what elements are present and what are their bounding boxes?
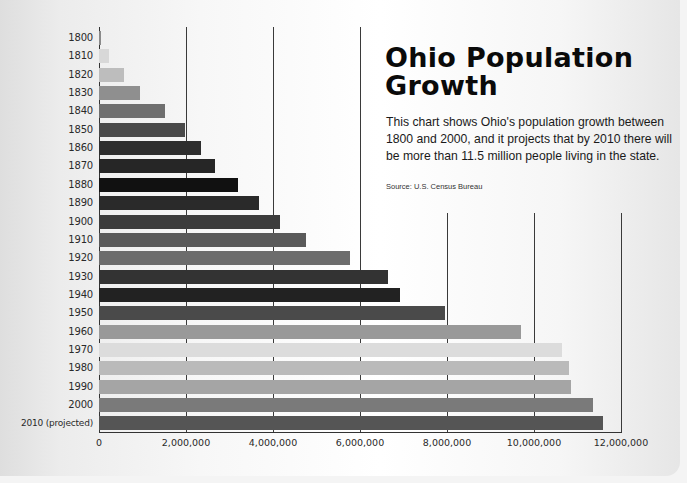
y-tick-label: 1900: [68, 216, 93, 228]
bar-1870: [99, 159, 215, 173]
y-tick-label: 2010 (projected): [21, 417, 93, 429]
y-tick-label: 1830: [68, 87, 93, 99]
bar-1880: [99, 178, 238, 192]
x-tick-label: 2,000,000: [162, 437, 210, 448]
x-tick-label: 4,000,000: [249, 437, 297, 448]
bar-1920: [99, 251, 350, 265]
y-tick-label: 1890: [68, 197, 93, 209]
x-axis-line: [99, 432, 622, 433]
bar-1960: [99, 325, 521, 339]
chart-page: 02,000,0004,000,0006,000,0008,000,00010,…: [0, 0, 680, 476]
bar-1910: [99, 233, 306, 247]
y-tick-label: 1950: [68, 307, 93, 319]
bar-1860: [99, 141, 201, 155]
y-tick-label: 1810: [68, 50, 93, 62]
chart-source: Source: U.S. Census Bureau: [386, 182, 482, 191]
bar-1900: [99, 215, 280, 229]
y-tick-label: 1940: [68, 289, 93, 301]
y-tick-label: 1990: [68, 381, 93, 393]
gridline: [621, 213, 622, 432]
x-tick-label: 12,000,000: [594, 437, 648, 448]
y-tick-label: 2000: [68, 399, 93, 411]
y-tick-label: 1930: [68, 271, 93, 283]
bar-1830: [99, 86, 140, 100]
bar-1890: [99, 196, 259, 210]
y-tick-label: 1880: [68, 179, 93, 191]
bar-2010: [99, 416, 603, 430]
chart-description: This chart shows Ohio's population growt…: [386, 114, 676, 165]
x-tick-label: 6,000,000: [336, 437, 384, 448]
y-tick-label: 1820: [68, 69, 93, 81]
y-tick-label: 1850: [68, 124, 93, 136]
bar-1970: [99, 343, 562, 357]
bar-1980: [99, 361, 569, 375]
y-tick-label: 1910: [68, 234, 93, 246]
bar-1930: [99, 270, 388, 284]
y-tick-label: 1980: [68, 362, 93, 374]
bar-1990: [99, 380, 571, 394]
y-axis-labels: 1800181018201830184018501860187018801890…: [0, 0, 93, 476]
bar-1840: [99, 104, 165, 118]
bar-1940: [99, 288, 400, 302]
x-tick-label: 10,000,000: [507, 437, 561, 448]
bar-1800: [99, 31, 101, 45]
bar-1810: [99, 49, 109, 63]
y-tick-label: 1970: [68, 344, 93, 356]
bar-1820: [99, 68, 124, 82]
y-tick-label: 1960: [68, 326, 93, 338]
y-tick-label: 1840: [68, 105, 93, 117]
x-tick-label: 0: [96, 437, 102, 448]
y-tick-label: 1920: [68, 252, 93, 264]
y-tick-label: 1870: [68, 160, 93, 172]
bar-1850: [99, 123, 185, 137]
x-tick-label: 8,000,000: [423, 437, 471, 448]
chart-title: Ohio Population Growth: [385, 44, 675, 100]
y-tick-label: 1800: [68, 32, 93, 44]
y-tick-label: 1860: [68, 142, 93, 154]
bar-2000: [99, 398, 593, 412]
bar-1950: [99, 306, 445, 320]
